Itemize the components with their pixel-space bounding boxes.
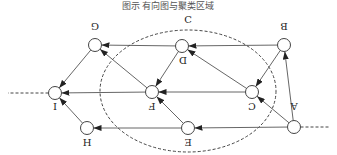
edge-F-G: [100, 49, 147, 88]
edge-G-I: [59, 50, 91, 88]
node-label-C: C: [248, 101, 256, 112]
edge-D-F: [156, 51, 179, 86]
node-label-A: A: [290, 101, 299, 112]
node-label-F: F: [148, 101, 155, 112]
edge-D-G: [101, 45, 175, 46]
edge-C-D: [187, 50, 246, 89]
node-label-I: I: [53, 101, 57, 112]
cluster-label: C: [184, 14, 192, 25]
edge-E-F: [157, 97, 184, 124]
node-label-D: D: [179, 55, 187, 66]
nodes: ABCDEFGHI: [49, 21, 301, 148]
edge-H-I: [59, 98, 82, 123]
node-F: [146, 86, 159, 99]
graph-diagram: 图示 有向图与聚类区域 C ABCDEFGHI: [0, 0, 337, 155]
node-E: [182, 122, 195, 135]
edge-A-E: [194, 127, 287, 128]
node-label-H: H: [82, 137, 91, 148]
node-A: [288, 121, 301, 134]
node-label-E: E: [184, 137, 191, 148]
node-D: [176, 40, 189, 53]
node-B: [278, 39, 291, 52]
node-G: [89, 39, 102, 52]
edge-B-D: [188, 45, 277, 46]
node-C: [246, 86, 259, 99]
node-H: [81, 122, 94, 135]
node-label-G: G: [91, 21, 99, 32]
caption: 图示 有向图与聚类区域: [122, 0, 215, 11]
node-I: [49, 87, 62, 100]
node-label-B: B: [280, 21, 287, 32]
edge-A-C: [257, 96, 289, 123]
edges: [59, 45, 293, 128]
edge-F-I: [61, 92, 145, 93]
